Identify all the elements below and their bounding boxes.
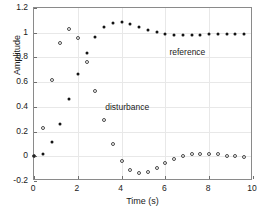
x-tick — [122, 176, 123, 179]
data-point-reference — [129, 23, 132, 26]
gridline-horizontal — [34, 57, 251, 58]
data-point-disturbance — [172, 157, 176, 161]
data-point-reference — [216, 32, 219, 35]
data-point-disturbance — [85, 60, 89, 64]
data-point-reference — [243, 32, 246, 35]
data-point-disturbance — [155, 166, 159, 170]
y-tick-label: 0.8 — [0, 52, 28, 61]
data-point-reference — [41, 152, 44, 155]
series-annotation-disturbance: disturbance — [105, 102, 149, 112]
data-point-disturbance — [111, 142, 115, 146]
x-tick — [209, 176, 210, 179]
data-point-reference — [190, 33, 193, 36]
data-point-reference — [146, 28, 149, 31]
data-point-disturbance — [76, 36, 80, 40]
series-annotation-reference: reference — [169, 47, 205, 57]
y-tick-label: -0.2 — [0, 176, 28, 185]
y-tick — [34, 8, 37, 9]
y-tick-label: 0 — [0, 151, 28, 160]
data-point-reference — [50, 141, 53, 144]
x-tick-label: 6 — [162, 184, 167, 193]
x-tick-label: 10 — [247, 184, 256, 193]
data-point-disturbance — [242, 155, 246, 159]
data-point-reference — [59, 122, 62, 125]
x-tick-label: 8 — [206, 184, 211, 193]
y-tick-label: 1 — [0, 27, 28, 36]
y-tick — [34, 33, 37, 34]
gridline-horizontal — [34, 156, 251, 157]
data-point-disturbance — [32, 154, 36, 158]
data-point-reference — [234, 32, 237, 35]
x-tick-label: 4 — [118, 184, 123, 193]
data-point-disturbance — [207, 152, 211, 156]
x-axis-label: Time (s) — [33, 196, 252, 206]
data-point-disturbance — [233, 154, 237, 158]
x-tick — [78, 176, 79, 179]
data-point-disturbance — [146, 170, 150, 174]
data-point-reference — [225, 32, 228, 35]
data-point-disturbance — [198, 152, 202, 156]
data-point-reference — [208, 32, 211, 35]
y-tick — [34, 181, 37, 182]
data-point-reference — [111, 21, 114, 24]
x-tick — [253, 176, 254, 179]
data-point-disturbance — [41, 126, 45, 130]
data-point-disturbance — [93, 89, 97, 93]
data-point-reference — [103, 26, 106, 29]
plot-area — [33, 7, 252, 180]
data-point-disturbance — [163, 161, 167, 165]
data-point-reference — [164, 32, 167, 35]
data-point-disturbance — [58, 41, 62, 45]
x-tick — [165, 176, 166, 179]
y-tick-label: 0.2 — [0, 126, 28, 135]
data-point-disturbance — [67, 27, 71, 31]
data-point-disturbance — [216, 152, 220, 156]
y-tick-label: 0.4 — [0, 102, 28, 111]
gridline-horizontal — [34, 132, 251, 133]
data-point-reference — [85, 52, 88, 55]
data-point-disturbance — [120, 159, 124, 163]
data-point-disturbance — [181, 154, 185, 158]
x-tick-label: 2 — [74, 184, 79, 193]
gridline-horizontal — [34, 82, 251, 83]
x-tick-label: 0 — [31, 184, 36, 193]
y-tick-label: 1.2 — [0, 3, 28, 12]
data-point-disturbance — [50, 78, 54, 82]
data-point-reference — [199, 33, 202, 36]
y-tick — [34, 57, 37, 58]
data-point-disturbance — [225, 154, 229, 158]
y-tick — [34, 82, 37, 83]
y-tick — [34, 132, 37, 133]
y-tick — [34, 107, 37, 108]
data-point-reference — [94, 36, 97, 39]
data-point-reference — [138, 26, 141, 29]
data-point-disturbance — [128, 168, 132, 172]
data-point-reference — [155, 31, 158, 34]
data-point-disturbance — [102, 118, 106, 122]
data-point-disturbance — [190, 152, 194, 156]
data-point-reference — [173, 33, 176, 36]
chart-figure: Time (s) Amplitude 0246810-0.200.20.40.6… — [0, 0, 260, 213]
data-point-reference — [120, 21, 123, 24]
y-tick-label: 0.6 — [0, 77, 28, 86]
x-tick — [34, 176, 35, 179]
data-point-reference — [181, 33, 184, 36]
data-point-disturbance — [137, 171, 141, 175]
data-point-reference — [76, 73, 79, 76]
data-point-reference — [68, 97, 71, 100]
